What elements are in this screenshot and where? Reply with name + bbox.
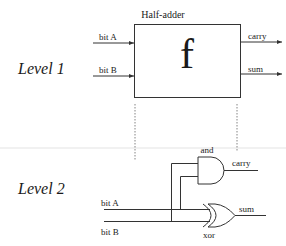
xor-gate-icon <box>208 204 235 227</box>
function-symbol: f <box>180 31 194 77</box>
half-adder-title: Half-adder <box>141 9 185 20</box>
circuit-input-label-bit-a: bit A <box>101 198 119 208</box>
xor-gate-label: xor <box>203 230 215 240</box>
level-2-circuit: bit A bit B and carry xor sum <box>101 145 266 240</box>
carry-output-label: carry <box>232 158 251 168</box>
wire-bit-b-to-and <box>172 164 199 222</box>
circuit-input-label-bit-b: bit B <box>101 227 119 237</box>
output-label-sum: sum <box>248 64 263 74</box>
level-2-label: Level 2 <box>17 180 65 197</box>
and-gate-label: and <box>201 145 214 155</box>
and-gate-icon <box>198 157 224 184</box>
level-1-block: Half-adder f bit A bit B carry sum <box>93 9 282 160</box>
input-label-bit-a: bit A <box>99 32 117 42</box>
xor-gate-extra-arc <box>203 204 211 227</box>
half-adder-diagram: Level 1 Level 2 Half-adder f bit A bit B… <box>0 0 286 246</box>
level-1-label: Level 1 <box>17 60 65 77</box>
output-label-carry: carry <box>248 31 267 41</box>
wire-bit-a-to-and <box>181 177 199 210</box>
sum-output-label: sum <box>239 204 254 214</box>
input-label-bit-b: bit B <box>99 65 117 75</box>
